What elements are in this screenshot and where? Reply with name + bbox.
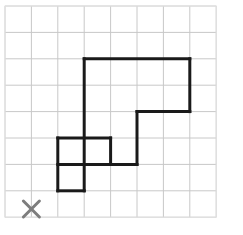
grid-worksheet-canvas bbox=[0, 0, 243, 235]
figure-svg bbox=[0, 0, 243, 235]
canvas-background bbox=[0, 0, 243, 235]
